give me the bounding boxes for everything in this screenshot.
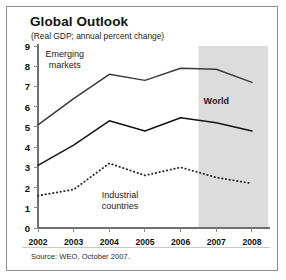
y-axis-tick-label: 7 xyxy=(14,81,30,92)
series-annotation-label: World xyxy=(204,95,229,106)
y-axis-tick-label: 4 xyxy=(14,142,30,153)
y-axis-tick-label: 8 xyxy=(14,61,30,72)
source-divider xyxy=(22,247,270,248)
x-axis-tick-label: 2002 xyxy=(21,237,55,247)
source-note: Source: WEO, October 2007. xyxy=(31,252,130,261)
y-axis-tick-label: 3 xyxy=(14,162,30,173)
x-axis-tick-label: 2004 xyxy=(92,237,126,247)
y-axis-tick-label: 1 xyxy=(14,202,30,213)
x-axis-tick-label: 2007 xyxy=(199,237,233,247)
y-axis-tick-label: 9 xyxy=(14,41,30,52)
y-axis-tick-label: 0 xyxy=(14,223,30,234)
x-axis-tick-label: 2008 xyxy=(235,237,269,247)
series-annotation-label: Emerging markets xyxy=(45,49,84,71)
forecast-shaded-region xyxy=(198,46,268,228)
x-axis-tick-label: 2006 xyxy=(164,237,198,247)
y-axis-tick-label: 6 xyxy=(14,101,30,112)
plot-area: 01234567892002200320042005200620072008Em… xyxy=(0,0,286,280)
x-axis-tick-label: 2005 xyxy=(128,237,162,247)
series-annotation-label: Industrial countries xyxy=(102,190,139,212)
y-axis-tick-label: 5 xyxy=(14,121,30,132)
chart-figure: Global Outlook (Real GDP; annual percent… xyxy=(0,0,286,280)
y-axis-tick-label: 2 xyxy=(14,182,30,193)
x-axis-tick-label: 2003 xyxy=(57,237,91,247)
